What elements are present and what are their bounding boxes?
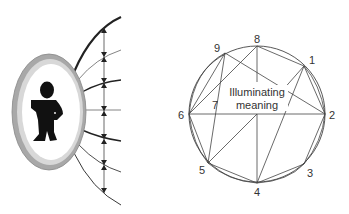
point-label-1: 1: [309, 54, 315, 66]
person-hand-detail: [54, 112, 56, 114]
point-label-3: 3: [307, 167, 313, 179]
point-label-6: 6: [178, 109, 184, 121]
point-label-8: 8: [254, 33, 260, 45]
center-label-line2: meaning: [236, 99, 278, 111]
point-label-4: 4: [254, 186, 260, 198]
right-figure: Illuminating meaning 8 9 1 2 3 4 5 6 7: [178, 33, 335, 198]
left-figure: [12, 17, 121, 205]
center-label-line1: Illuminating: [229, 86, 285, 98]
diagram-canvas: Illuminating meaning 8 9 1 2 3 4 5 6 7: [0, 0, 349, 214]
point-label-5: 5: [199, 164, 205, 176]
arrowheads: [101, 28, 107, 193]
point-label-9: 9: [214, 42, 220, 54]
point-label-2: 2: [329, 109, 335, 121]
point-label-7: 7: [212, 99, 218, 111]
